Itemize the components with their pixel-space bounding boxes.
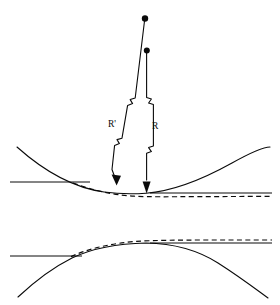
figure-container: R' R bbox=[0, 0, 280, 305]
r-arrowhead bbox=[143, 182, 151, 194]
r-prime-center-dot bbox=[142, 15, 148, 21]
label-r: R bbox=[152, 122, 158, 132]
r-prime-arrowhead bbox=[112, 175, 121, 186]
upper-solid-surface-curve bbox=[17, 147, 270, 194]
r-prime-ray-line bbox=[112, 21, 145, 181]
upper-panel bbox=[10, 147, 272, 197]
r-prime-ray bbox=[112, 15, 149, 185]
r-ray-line bbox=[147, 53, 154, 180]
lower-panel bbox=[10, 240, 272, 298]
figure-drawing bbox=[0, 0, 280, 305]
upper-dashed-approx-curve bbox=[73, 183, 272, 197]
label-r-prime: R' bbox=[108, 120, 116, 130]
lower-solid-surface-curve bbox=[18, 243, 268, 298]
